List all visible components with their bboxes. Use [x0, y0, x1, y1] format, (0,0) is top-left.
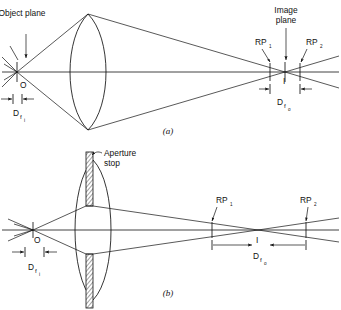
dfi-sub-a: f — [20, 113, 22, 120]
ray-a-lower-in — [17, 72, 88, 130]
aperture-stop-label-line1: Aperture — [104, 148, 136, 158]
dfi-subsub-a: i — [24, 118, 25, 123]
dfi-main-a: D — [13, 108, 19, 118]
image-point-label-b: I — [256, 235, 258, 245]
rp1-leader-b — [212, 207, 217, 221]
depth-of-field-dim-a: D f i — [1, 94, 34, 123]
ray-b-upper-in — [33, 206, 86, 230]
ray-b-lower-in — [33, 230, 86, 254]
rp1-label-group-b: RP 1 — [212, 195, 233, 221]
depth-of-field-dim-b: D f i — [12, 247, 57, 277]
panel-label-a: (a) — [163, 126, 174, 136]
rp2-leader-b — [306, 207, 308, 221]
rp1-subscript-a: 1 — [269, 44, 272, 49]
rp2-label-group-a: RP 2 — [301, 37, 323, 62]
rp1-label-b: RP — [216, 195, 228, 205]
incoming-ray-b-2 — [8, 230, 33, 241]
figure-svg: Object plane Image plane O I RP 1 RP 2 — [0, 0, 341, 310]
ray-a-lower-out — [88, 72, 285, 130]
depth-of-focus-dim-b: D f o — [212, 240, 306, 266]
rp1-label-group-a: RP 1 — [255, 37, 272, 62]
optics-figure: Object plane Image plane O I RP 1 RP 2 — [0, 0, 341, 310]
dfi-main-b: D — [28, 262, 34, 272]
rp1-leader-a — [262, 49, 270, 62]
incoming-ray-b-3 — [14, 224, 33, 230]
depth-of-focus-dim-a: D f o — [259, 84, 312, 112]
aperture-stop-label-group: Aperture stop — [92, 148, 136, 168]
ray-a-upper-in — [17, 14, 88, 72]
rp2-label-a: RP — [306, 37, 318, 47]
ray-a-upper-beyond — [285, 56, 339, 72]
dfi-sub-b: f — [35, 267, 37, 274]
object-point-label-a: O — [20, 80, 27, 90]
incoming-ray-b-1 — [8, 219, 33, 230]
aperture-blade-upper — [86, 152, 93, 206]
ray-b-upper-beyond — [258, 230, 339, 242]
dfo-sub-a: f — [284, 102, 286, 109]
dfo-sub-b: f — [260, 256, 262, 263]
ray-b-lower-beyond — [258, 218, 339, 230]
ray-b-lower-out — [93, 230, 258, 254]
incoming-ray-b-4 — [14, 230, 33, 236]
object-plane-label-line1: Object plane — [0, 8, 46, 18]
aperture-blade-lower — [86, 254, 93, 308]
rp2-label-b: RP — [300, 195, 312, 205]
ray-b-upper-out — [93, 206, 258, 230]
rp2-label-group-b: RP 2 — [300, 195, 317, 221]
aperture-stop-label-line2: stop — [104, 158, 120, 168]
rp1-label-a: RP — [255, 37, 267, 47]
object-point-label-b: O — [34, 235, 41, 245]
ray-a-lower-beyond — [285, 72, 339, 88]
dfo-subsub-a: o — [288, 107, 291, 112]
rp2-subscript-a: 2 — [320, 44, 323, 49]
rp2-subscript-b: 2 — [314, 202, 317, 207]
image-point-label-a: I — [283, 76, 285, 86]
dfi-subsub-b: i — [39, 272, 40, 277]
panel-label-b: (b) — [163, 288, 174, 298]
rp2-leader-a — [301, 49, 307, 62]
aperture-stop-leader — [92, 152, 102, 155]
panel-a: Object plane Image plane O I RP 1 RP 2 — [0, 5, 339, 136]
image-plane-label-line1: Image — [274, 5, 298, 15]
rp1-subscript-b: 1 — [230, 202, 233, 207]
panel-b: Aperture stop O I RP 1 RP 2 — [2, 148, 339, 308]
object-plane-leader-a2 — [10, 46, 18, 60]
image-plane-label-line2: plane — [276, 15, 297, 25]
dfo-main-a: D — [277, 97, 283, 107]
dfo-subsub-b: o — [264, 261, 267, 266]
dfo-main-b: D — [253, 251, 259, 261]
